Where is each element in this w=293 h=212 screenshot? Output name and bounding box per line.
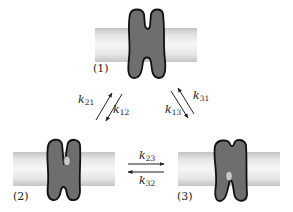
state-label-3: (3) <box>177 190 193 203</box>
state-label-2: (2) <box>13 190 29 203</box>
state-label-1: (1) <box>93 62 109 75</box>
kinetic-scheme-diagram: (1) (2) (3) k21 k12 k31 k13 <box>0 0 293 212</box>
transporter-protein-1 <box>128 10 165 79</box>
rate-label-k32: k32 <box>139 174 155 188</box>
rate-label-k13: k13 <box>165 103 181 117</box>
state-3: (3) <box>177 140 280 203</box>
rate-label-k12: k12 <box>113 103 129 117</box>
transition-1-2: k21 k12 <box>78 93 129 121</box>
transition-1-3: k31 k13 <box>165 88 209 118</box>
state-2: (2) <box>13 140 115 203</box>
transition-2-3: k23 k32 <box>128 149 164 188</box>
substrate-3 <box>226 171 232 180</box>
transporter-protein-2 <box>47 140 80 200</box>
substrate-2 <box>64 156 70 165</box>
rate-label-k31: k31 <box>193 89 209 103</box>
rate-label-k21: k21 <box>78 93 94 107</box>
transporter-protein-3 <box>214 140 247 201</box>
state-1: (1) <box>93 10 197 79</box>
arrow-k21 <box>96 93 112 120</box>
rate-label-k23: k23 <box>139 149 155 163</box>
